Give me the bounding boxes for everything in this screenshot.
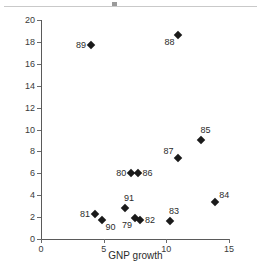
y-axis-tick <box>37 64 41 65</box>
data-point-label: 88 <box>165 38 175 47</box>
x-axis-tick <box>104 239 105 243</box>
data-point-label: 81 <box>80 210 90 219</box>
data-point-marker <box>211 198 219 206</box>
y-axis-tick-label: 10 <box>25 125 35 134</box>
y-axis-tick-label: 14 <box>25 81 35 90</box>
y-axis-tick <box>37 86 41 87</box>
data-point-label: 83 <box>169 207 179 216</box>
data-point-label: 89 <box>76 41 86 50</box>
data-point-marker <box>197 136 205 144</box>
data-point-label: 84 <box>219 191 229 200</box>
data-point-marker <box>173 154 181 162</box>
x-axis-line <box>41 239 230 240</box>
data-point-label: 90 <box>105 223 115 232</box>
data-point-label: 85 <box>200 126 210 135</box>
data-point-label: 80 <box>116 169 126 178</box>
y-axis-tick-label: 12 <box>25 103 35 112</box>
page-rule-divider <box>4 6 257 7</box>
y-axis-tick-label: 6 <box>30 169 35 178</box>
y-axis-tick-label: 2 <box>30 213 35 222</box>
data-point-label: 91 <box>124 194 134 203</box>
data-point-marker <box>91 210 99 218</box>
y-axis-tick-label: 4 <box>30 191 35 200</box>
x-axis-tick <box>41 239 42 243</box>
y-axis-tick-label: 0 <box>30 235 35 244</box>
y-axis-tick <box>37 108 41 109</box>
data-point-label: 86 <box>143 169 153 178</box>
x-axis-title: GNP growth <box>41 250 230 261</box>
x-axis-tick <box>166 239 167 243</box>
data-point-marker <box>133 169 141 177</box>
y-axis-tick <box>37 217 41 218</box>
y-axis-tick-label: 8 <box>30 147 35 156</box>
y-axis-tick-label: 16 <box>25 59 35 68</box>
y-axis-tick <box>37 195 41 196</box>
scatter-chart-figure: 0246810121416182005101579808182838485868… <box>0 0 261 272</box>
y-axis-tick <box>37 20 41 21</box>
plot-area: 0246810121416182005101579808182838485868… <box>41 20 229 239</box>
y-axis-tick-label: 20 <box>25 16 35 25</box>
y-axis-tick-label: 18 <box>25 37 35 46</box>
y-axis-tick <box>37 130 41 131</box>
y-axis-tick <box>37 173 41 174</box>
data-point-label: 87 <box>164 147 174 156</box>
data-point-marker <box>166 217 174 225</box>
data-point-label: 82 <box>145 216 155 225</box>
y-axis-tick <box>37 151 41 152</box>
data-point-marker <box>121 204 129 212</box>
data-point-marker <box>173 31 181 39</box>
page-rule-mark <box>112 2 117 6</box>
data-point-marker <box>136 216 144 224</box>
data-point-marker <box>87 41 95 49</box>
y-axis-tick <box>37 42 41 43</box>
x-axis-tick <box>229 239 230 243</box>
data-point-label: 79 <box>122 221 132 230</box>
